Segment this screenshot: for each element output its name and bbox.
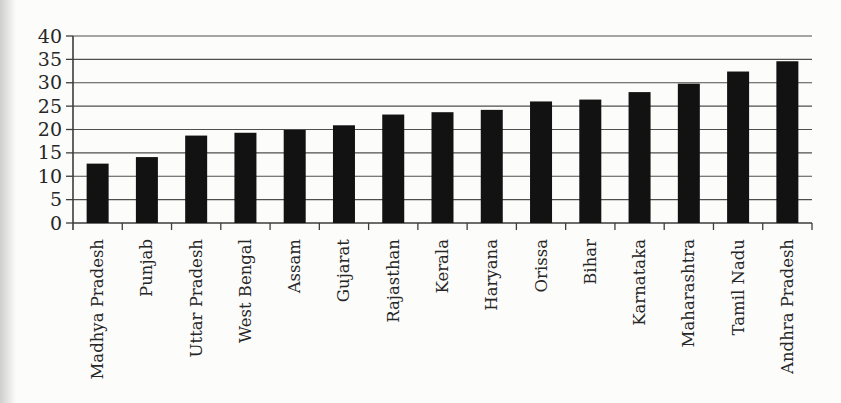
bar <box>579 100 601 223</box>
x-axis-label: Tamil Nadu <box>729 239 748 336</box>
bar-chart-svg: 0510152025303540Madhya PradeshPunjabUtta… <box>0 0 841 403</box>
x-axis-label: Haryana <box>482 239 501 311</box>
x-axis-label: Maharashtra <box>679 239 698 348</box>
y-axis-label: 35 <box>38 48 62 70</box>
x-axis-label: Andhra Pradesh <box>778 239 797 375</box>
x-axis-label: Bihar <box>581 239 600 285</box>
x-axis-label: Assam <box>285 239 304 295</box>
y-axis-label: 0 <box>50 212 62 234</box>
y-axis-label: 25 <box>38 95 62 117</box>
bar <box>727 72 749 223</box>
bar <box>333 125 355 223</box>
bar <box>87 164 109 223</box>
bar <box>678 84 700 223</box>
bar <box>284 130 306 223</box>
y-axis-label: 20 <box>38 118 62 140</box>
bar <box>234 133 256 223</box>
bar <box>432 112 454 223</box>
x-axis-label: Rajasthan <box>384 239 403 323</box>
y-axis-label: 30 <box>38 71 62 93</box>
y-axis-label: 15 <box>38 141 62 163</box>
bar <box>481 110 503 223</box>
bar <box>382 115 404 223</box>
x-axis-label: Kerala <box>433 239 452 294</box>
scanned-bar-chart-figure: 0510152025303540Madhya PradeshPunjabUtta… <box>0 0 841 403</box>
y-axis-label: 5 <box>50 188 62 210</box>
bar <box>776 61 798 223</box>
bar <box>136 157 158 223</box>
bar <box>629 92 651 223</box>
y-axis-label: 40 <box>38 25 62 47</box>
x-axis-label: Madhya Pradesh <box>88 239 107 380</box>
bar <box>530 101 552 223</box>
x-axis-label: Orissa <box>532 239 551 293</box>
bar <box>185 136 207 223</box>
x-axis-label: Uttar Pradesh <box>187 239 206 358</box>
x-axis-label: Gujarat <box>334 239 353 302</box>
x-axis-label: Punjab <box>137 239 156 297</box>
x-axis-label: Karnataka <box>630 239 649 326</box>
x-axis-label: West Bengal <box>236 239 255 343</box>
y-axis-label: 10 <box>38 165 62 187</box>
